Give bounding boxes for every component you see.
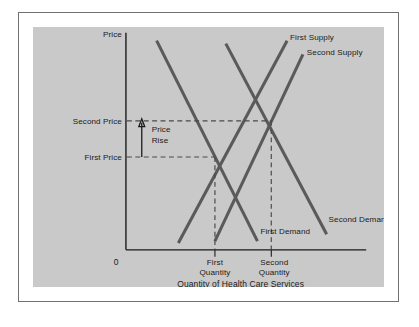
x-axis-title: Quantity of Health Care Services [177, 279, 304, 287]
x-tick-label-first-quantity-line1: First [207, 259, 224, 268]
curve-label-second-supply: Second Supply [307, 48, 363, 57]
screenshot-root: Price 0 Second Price First Price First Q… [0, 0, 419, 327]
chart-curves [157, 41, 327, 243]
x-tick-label-second-quantity-line2: Quantity [259, 268, 290, 277]
price-rise-label-line1: Price [152, 125, 171, 134]
price-rise-annotation [139, 119, 145, 157]
x-axis-ticks [215, 250, 271, 257]
origin-label: 0 [114, 257, 119, 267]
curve-first-demand [157, 41, 258, 241]
x-tick-label-first-quantity-line2: Quantity [199, 268, 230, 277]
figure-frame: Price 0 Second Price First Price First Q… [18, 12, 399, 302]
y-tick-label-second-price: Second Price [73, 117, 123, 126]
plot-panel: Price 0 Second Price First Price First Q… [33, 27, 384, 287]
y-tick-label-first-price: First Price [84, 153, 122, 162]
curve-label-first-demand: First Demand [260, 227, 310, 236]
price-rise-label-line2: Rise [152, 136, 169, 145]
supply-demand-chart: Price 0 Second Price First Price First Q… [33, 27, 384, 287]
y-axis-title: Price [103, 30, 122, 39]
equilibrium-guides [127, 121, 271, 250]
x-tick-label-second-quantity-line1: Second [260, 259, 288, 268]
curve-label-second-demand: Second Demand [329, 216, 384, 225]
curve-label-first-supply: First Supply [290, 33, 334, 42]
figure-mat: Price 0 Second Price First Price First Q… [21, 15, 396, 299]
